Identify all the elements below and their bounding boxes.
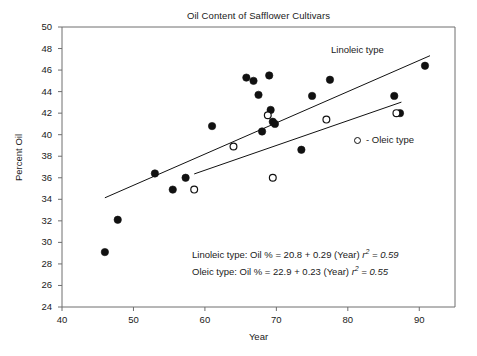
data-point-linoleic (114, 216, 121, 223)
equation-oleic-text: Oleic type: Oil % = 22.9 + 0.23 (Year) (192, 266, 352, 277)
data-point-oleic (264, 112, 271, 119)
data-point-linoleic (271, 120, 278, 127)
scatter-plot-canvas (0, 0, 477, 356)
y-tick-label: 26 (28, 279, 52, 290)
y-tick-label: 28 (28, 258, 52, 269)
equation-oleic: Oleic type: Oil % = 22.9 + 0.23 (Year) r… (192, 262, 399, 279)
x-tick-label: 60 (193, 314, 217, 325)
data-point-linoleic (391, 92, 398, 99)
data-point-linoleic (151, 170, 158, 177)
data-point-linoleic (326, 76, 333, 83)
x-tick-label: 90 (407, 314, 431, 325)
y-tick-label: 48 (28, 43, 52, 54)
data-point-linoleic (250, 77, 257, 84)
equation-linoleic-text: Linoleic type: Oil % = 20.8 + 0.29 (Year… (192, 249, 362, 260)
y-tick-label: 46 (28, 64, 52, 75)
data-point-oleic (230, 143, 237, 150)
y-tick-label: 42 (28, 107, 52, 118)
data-points (101, 62, 429, 256)
data-point-linoleic (208, 122, 215, 129)
data-point-oleic (191, 186, 198, 193)
oleic-series-label: - Oleic type (366, 134, 414, 145)
data-point-linoleic (298, 146, 305, 153)
y-tick-label: 36 (28, 172, 52, 183)
y-tick-label: 40 (28, 129, 52, 140)
y-tick-label: 34 (28, 193, 52, 204)
oleic-legend-marker-icon (354, 137, 361, 144)
y-tick-label: 30 (28, 236, 52, 247)
data-point-linoleic (255, 91, 262, 98)
equation-linoleic-value: = 0.59 (369, 249, 398, 260)
y-tick-label: 44 (28, 86, 52, 97)
data-point-linoleic (243, 74, 250, 81)
data-point-linoleic (266, 72, 273, 79)
x-tick-label: 70 (264, 314, 288, 325)
data-point-oleic (269, 174, 276, 181)
linoleic-series-label: Linoleic type (331, 44, 384, 55)
x-tick-label: 50 (121, 314, 145, 325)
data-point-oleic (393, 110, 400, 117)
y-tick-label: 32 (28, 215, 52, 226)
data-point-linoleic (101, 248, 108, 255)
x-tick-label: 40 (50, 314, 74, 325)
x-tick-label: 80 (336, 314, 360, 325)
data-point-linoleic (258, 128, 265, 135)
equation-linoleic: Linoleic type: Oil % = 20.8 + 0.29 (Year… (192, 245, 399, 262)
data-point-linoleic (421, 62, 428, 69)
data-point-linoleic (169, 186, 176, 193)
equation-oleic-value: = 0.55 (359, 266, 388, 277)
regression-equations: Linoleic type: Oil % = 20.8 + 0.29 (Year… (192, 245, 399, 279)
y-tick-label: 24 (28, 301, 52, 312)
y-tick-label: 38 (28, 150, 52, 161)
data-point-linoleic (182, 174, 189, 181)
data-point-oleic (323, 116, 330, 123)
data-point-linoleic (308, 92, 315, 99)
chart-figure: Oil Content of Safflower Cultivars Perce… (0, 0, 477, 356)
y-tick-label: 50 (28, 21, 52, 32)
